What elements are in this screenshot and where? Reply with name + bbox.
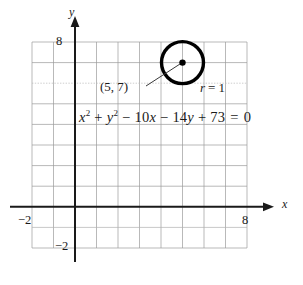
x-tick-label-minus2: −2 bbox=[18, 214, 31, 227]
center-point-marker bbox=[179, 59, 185, 65]
center-point-label: (5, 7) bbox=[100, 80, 128, 93]
x-tick-label-8: 8 bbox=[242, 214, 248, 227]
y-tick-label-minus2: −2 bbox=[55, 240, 68, 253]
radius-label: r=1 bbox=[200, 81, 225, 94]
circle-graph-figure: y x 8 −2 −2 8 (5, 7) r=1 x2+y2−110x0x−14… bbox=[0, 0, 303, 285]
eq-term-0: 0 bbox=[244, 109, 251, 125]
eq-plus-1: + bbox=[94, 109, 102, 125]
eq-term-10x: 1 bbox=[134, 109, 141, 125]
radius-symbol: r bbox=[200, 80, 205, 95]
eq-minus-2: − bbox=[160, 109, 168, 125]
eq-exp-x: 2 bbox=[86, 108, 91, 118]
eq-exp-y: 2 bbox=[113, 108, 118, 118]
plot-canvas bbox=[0, 0, 303, 285]
y-tick-label-8: 8 bbox=[56, 35, 62, 48]
eq-term-x: x bbox=[79, 109, 86, 125]
eq-term-73: 73 bbox=[210, 109, 225, 125]
grid-lines bbox=[32, 42, 247, 248]
circle-equation: x2+y2−110x0x−14y14y+73=0 bbox=[79, 110, 251, 125]
y-axis bbox=[71, 16, 80, 262]
y-axis-label: y bbox=[69, 6, 74, 18]
eq-plus-2: + bbox=[198, 109, 206, 125]
eq-minus-1: − bbox=[122, 109, 130, 125]
eq-equals: = bbox=[230, 109, 238, 125]
radius-value: 1 bbox=[218, 80, 225, 95]
radius-equals: = bbox=[208, 80, 215, 95]
x-axis bbox=[10, 202, 274, 211]
x-axis-label: x bbox=[282, 198, 287, 210]
